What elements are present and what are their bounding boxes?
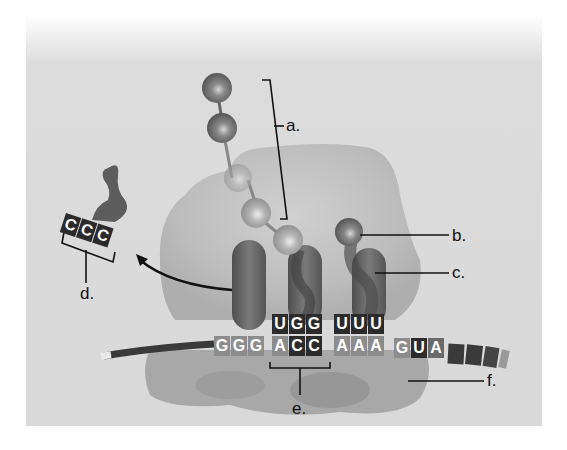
nucleotide: U: [368, 314, 384, 334]
label-b: b.: [452, 227, 466, 244]
label-a: a.: [286, 117, 300, 134]
nucleotide: U: [334, 314, 350, 334]
nucleotide: C: [289, 336, 305, 356]
nucleotide: U: [272, 314, 288, 334]
nucleotide: A: [272, 336, 288, 356]
nucleotide: U: [351, 314, 367, 334]
amino-acid: [335, 218, 363, 246]
mrna-strand-right: [447, 344, 509, 369]
label-d: d.: [80, 285, 94, 302]
label-c: c.: [452, 264, 465, 281]
label-f: f.: [487, 372, 496, 389]
released-trna: [92, 165, 127, 222]
nucleotide: A: [368, 336, 384, 356]
nucleotide: G: [214, 336, 230, 356]
nucleotide: G: [306, 314, 322, 334]
anticodon-a-site: U U U: [334, 314, 384, 334]
nucleotide: G: [394, 338, 410, 358]
mrna-codon-4: G U A: [394, 338, 444, 358]
mrna-codon-1: G G G: [214, 336, 264, 356]
nucleotide: C: [306, 336, 322, 356]
nucleotide: A: [351, 336, 367, 356]
nucleotide: G: [231, 336, 247, 356]
label-e: e.: [292, 400, 306, 417]
nucleotide: A: [428, 338, 444, 358]
anticodon-p-site: U G G: [272, 314, 322, 334]
mrna-codon-2: A C C: [272, 336, 322, 356]
nucleotide: G: [289, 314, 305, 334]
mrna-codon-3: A A A: [334, 336, 384, 356]
nucleotide: A: [334, 336, 350, 356]
nucleotide: U: [411, 338, 427, 358]
nucleotide: G: [248, 336, 264, 356]
trna-exit-site: [232, 240, 266, 330]
ribosome-small-subunit: [145, 350, 429, 415]
